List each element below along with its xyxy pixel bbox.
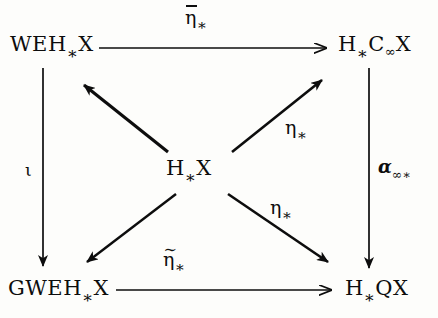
node-h-c-infinity-x-subscript: ∗ <box>357 43 368 63</box>
arrow-center-to-top-right-line <box>232 80 322 152</box>
node-weh-x-tail: X <box>78 32 93 56</box>
arrow-label-alpha-infinity-star: α∞∗ <box>378 158 411 181</box>
arrow-label-eta-star-upper-right: η∗ <box>285 118 307 144</box>
node-h-c-infinity-x-tail: X <box>396 32 411 56</box>
node-weh-x-base: WEH <box>10 32 67 56</box>
node-h-x-base: H <box>166 156 185 180</box>
arrow-label-eta-bar-subscript: ∗ <box>196 16 206 34</box>
node-weh-x-subscript: ∗ <box>67 43 78 63</box>
arrow-label-eta-lower-base: η <box>270 196 281 218</box>
arrow-label-eta-upper-subscript: ∗ <box>296 126 306 144</box>
eta-tilde-glyph: ∼η <box>163 250 174 269</box>
arrow-label-eta-lower-subscript: ∗ <box>281 206 291 224</box>
arrow-label-alpha-subscript: ∞∗ <box>392 167 411 182</box>
node-h-c-infinity-x-base: H <box>338 32 357 56</box>
arrow-center-to-top-left-line <box>84 85 168 152</box>
node-gweh-x-subscript: ∗ <box>82 287 93 307</box>
arrow-label-iota-base: ι <box>25 160 32 180</box>
node-h-q-x-base: H <box>345 276 364 300</box>
arrow-label-eta-star-lower-right: η∗ <box>270 198 292 224</box>
arrow-label-eta-upper-base: η <box>285 116 296 138</box>
eta-bar-glyph: η <box>185 8 196 27</box>
node-gweh-x-tail: X <box>93 276 108 300</box>
node-gweh-x-base: GWEH <box>8 276 82 300</box>
node-h-x-subscript: ∗ <box>185 167 196 187</box>
arrow-label-eta-bar-star: η∗ <box>185 8 207 34</box>
arrow-label-eta-tilde-star: ∼η∗ <box>163 250 185 276</box>
node-h-c-infinity-x-mid-subscript: ∞ <box>385 44 396 59</box>
node-h-c-infinity-x-mid: C <box>368 32 385 56</box>
arrow-label-eta-bar-base: η <box>185 6 196 28</box>
arrow-label-eta-tilde-subscript: ∗ <box>174 258 184 276</box>
overbar-accent-icon <box>186 5 198 7</box>
arrow-label-iota: ι <box>25 162 32 179</box>
node-h-x-tail: X <box>196 156 211 180</box>
commutative-diagram: WEH∗X H∗C∞X H∗X GWEH∗X H∗QX η∗ ∼η∗ ι α∞∗… <box>0 0 438 318</box>
arrow-label-alpha-base: α <box>378 156 392 177</box>
node-gweh-x: GWEH∗X <box>8 278 109 306</box>
tilde-accent-icon: ∼ <box>163 242 175 258</box>
node-h-c-infinity-x: H∗C∞X <box>338 34 411 62</box>
node-h-x: H∗X <box>166 158 212 186</box>
node-h-q-x-subscript: ∗ <box>364 287 375 307</box>
node-h-q-x: H∗QX <box>345 278 408 306</box>
node-h-q-x-tail: QX <box>375 276 408 300</box>
node-weh-x: WEH∗X <box>10 34 94 62</box>
